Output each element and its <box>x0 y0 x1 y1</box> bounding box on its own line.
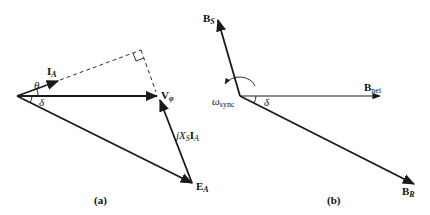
omega-sync-label: ωsync <box>212 96 234 109</box>
caption-b: (b) <box>327 194 340 206</box>
br-label: BR <box>402 186 415 199</box>
delta-arc-b <box>254 96 256 103</box>
bs-vector <box>218 20 240 96</box>
perpendicular-dashed <box>141 50 156 92</box>
delta-label-b: δ <box>264 97 269 108</box>
ea-label: EA <box>196 181 209 194</box>
delta-arc <box>30 96 32 103</box>
caption-a: (a) <box>94 194 107 206</box>
jxs-ia-label: jXSIA <box>176 130 199 143</box>
ia-extension-dashed <box>60 50 141 80</box>
panel-a-diagram <box>17 50 192 183</box>
br-vector <box>240 96 414 184</box>
ea-phasor <box>17 96 192 183</box>
right-angle-marker <box>133 53 144 61</box>
delta-label: δ <box>39 97 44 108</box>
panel-b-diagram <box>218 20 414 184</box>
theta-label: θ <box>34 80 39 91</box>
bnet-label: Bnet <box>364 82 381 95</box>
vphi-label: Vφ <box>161 90 174 103</box>
bs-label: BS <box>203 13 215 26</box>
rotation-arrow <box>225 77 255 86</box>
ia-label: IA <box>47 66 57 79</box>
